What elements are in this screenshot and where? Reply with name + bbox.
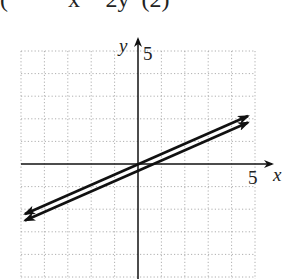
y-tick-5: 5 xyxy=(143,43,153,64)
x-axis-label: x xyxy=(272,164,282,185)
x-tick-5: 5 xyxy=(248,167,258,188)
line-2 xyxy=(25,123,248,221)
line-1 xyxy=(25,116,248,214)
y-axis-label: y xyxy=(117,35,128,56)
coordinate-plot: y 5 5 x xyxy=(0,0,295,279)
